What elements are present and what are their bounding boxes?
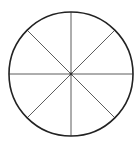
center-point <box>70 73 73 76</box>
divided-circle-diagram <box>0 0 138 153</box>
